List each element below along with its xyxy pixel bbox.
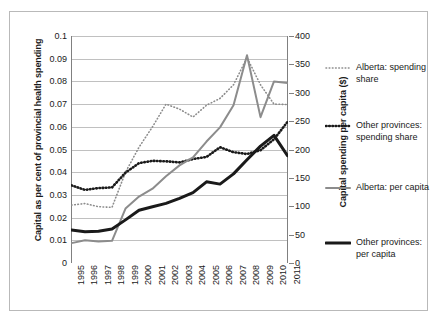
right-axis-tickmarks bbox=[289, 36, 295, 265]
fine-dotted-gray-swatch bbox=[325, 62, 351, 74]
legend-label: Other provinces: per capita bbox=[356, 237, 430, 260]
x-tick-label: 1997 bbox=[103, 265, 113, 285]
y-tick-label-left: 0.04 bbox=[49, 167, 67, 177]
y-tick-label-right: 400 bbox=[295, 31, 310, 41]
y-tick-label-left: 0.02 bbox=[49, 213, 67, 223]
y-tick-label-left: 0.1 bbox=[54, 31, 67, 41]
series-line bbox=[72, 58, 288, 208]
y-tick-label-right: 100 bbox=[295, 201, 310, 211]
x-tick-label: 1998 bbox=[116, 265, 126, 285]
x-tick-label: 2007 bbox=[238, 265, 248, 285]
y-tick-label-left: 0.07 bbox=[49, 99, 67, 109]
x-tick-label: 2009 bbox=[265, 265, 275, 285]
solid-black-swatch bbox=[325, 237, 351, 249]
y-tick-label-right: 300 bbox=[295, 88, 310, 98]
series-line bbox=[72, 135, 288, 231]
x-tick-label: 1995 bbox=[76, 265, 86, 285]
y-tick-label-right: 50 bbox=[295, 230, 305, 240]
plot-area bbox=[71, 36, 288, 263]
x-tick-label: 2010 bbox=[278, 265, 288, 285]
solid-gray-swatch bbox=[325, 182, 351, 194]
x-tick-label: 2006 bbox=[224, 265, 234, 285]
legend-item: Alberta: per capita bbox=[325, 182, 430, 194]
x-axis-ticks: 1995199619971998199920002001200220032004… bbox=[71, 265, 288, 315]
y-tick-label-left: 0.06 bbox=[49, 122, 67, 132]
y-tick-label-left: 0.01 bbox=[49, 235, 67, 245]
y-tick-label-left: 0.05 bbox=[49, 145, 67, 155]
x-tick-label: 2011 bbox=[292, 265, 302, 284]
legend-item: Alberta: spending share bbox=[325, 62, 430, 85]
legend-item: Other provinces: spending share bbox=[325, 120, 430, 143]
legend-label: Alberta: spending share bbox=[356, 62, 430, 85]
y-tick-label-right: 150 bbox=[295, 173, 310, 183]
x-tick-label: 1999 bbox=[130, 265, 140, 285]
y-tick-label-right: 200 bbox=[295, 145, 310, 155]
y-axis-ticks-left: 00.010.020.030.040.050.060.070.080.090.1 bbox=[36, 36, 67, 263]
x-tick-label: 2005 bbox=[211, 265, 221, 285]
legend-label: Alberta: per capita bbox=[356, 182, 429, 194]
legend-item: Other provinces: per capita bbox=[325, 237, 430, 260]
x-tick-label: 2004 bbox=[197, 265, 207, 285]
y-tick-label-left: 0.08 bbox=[49, 76, 67, 86]
chart-figure: Capital as per cent of provincial health… bbox=[0, 0, 438, 322]
x-tick-label: 2000 bbox=[143, 265, 153, 285]
y-axis-ticks-right: 050100150200250300350400 bbox=[295, 36, 325, 263]
y-tick-label-left: 0 bbox=[62, 258, 67, 268]
x-tick-label: 2008 bbox=[251, 265, 261, 285]
y-tick-label-right: 350 bbox=[295, 59, 310, 69]
legend-label: Other provinces: spending share bbox=[356, 120, 430, 143]
x-tick-label: 2002 bbox=[170, 265, 180, 285]
series-line bbox=[72, 55, 288, 243]
x-tick-label: 1996 bbox=[89, 265, 99, 285]
y-tick-label-left: 0.09 bbox=[49, 54, 67, 64]
x-tick-label: 2001 bbox=[157, 265, 167, 285]
bold-dotted-black-swatch bbox=[325, 120, 351, 132]
plot-svg bbox=[71, 36, 288, 263]
series-line bbox=[72, 122, 288, 190]
y-tick-label-right: 250 bbox=[295, 116, 310, 126]
y-tick-label-left: 0.03 bbox=[49, 190, 67, 200]
x-tick-label: 2003 bbox=[184, 265, 194, 285]
